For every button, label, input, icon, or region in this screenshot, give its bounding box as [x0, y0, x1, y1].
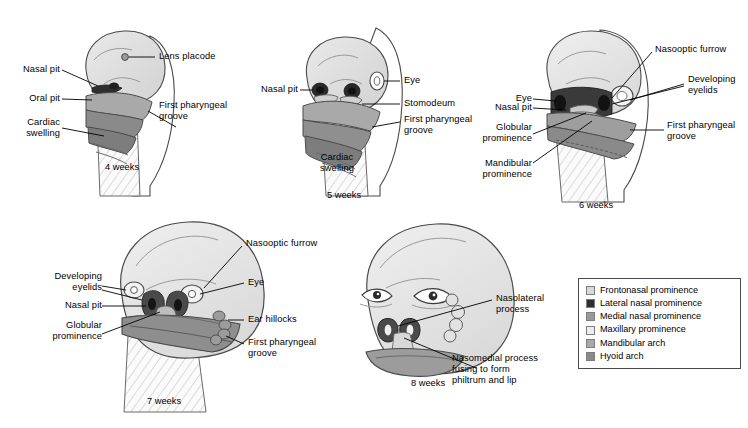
- legend-swatch-mandibular-arch: [586, 339, 595, 348]
- week-label-8w: 8 weeks: [378, 378, 478, 388]
- label-eye-7w: Eye: [248, 277, 264, 288]
- label-nasooptic-furrow-6w: Nasooptic furrow: [655, 44, 726, 55]
- label-eye-5w: Eye: [404, 75, 420, 86]
- legend-item-frontonasal-prominence: Frontonasal prominence: [586, 284, 734, 297]
- label-first-pharyngeal-groove-6w: First pharyngeal groove: [667, 120, 735, 142]
- label-nasolateral-process-8w: Nasolateral process: [496, 293, 544, 315]
- legend-swatch-frontonasal-prominence: [586, 286, 595, 295]
- legend-item-lateral-nasal-prominence: Lateral nasal prominence: [586, 297, 734, 310]
- label-globular-prominence-6w: Globular prominence: [470, 122, 532, 144]
- label-developing-eyelids-7w: Developing eyelids: [34, 271, 102, 293]
- label-developing-eyelids-6w: Developing eyelids: [688, 74, 736, 96]
- legend-label-medial-nasal-prominence: Medial nasal prominence: [600, 312, 701, 322]
- week-label-5w: 5 weeks: [294, 190, 394, 200]
- week-label-6w: 6 weeks: [546, 200, 646, 210]
- legend-label-lateral-nasal-prominence: Lateral nasal prominence: [600, 299, 702, 309]
- legend-item-mandibular-arch: Mandibular arch: [586, 337, 734, 350]
- week-label-4w: 4 weeks: [72, 162, 172, 172]
- legend-swatch-medial-nasal-prominence: [586, 312, 595, 321]
- label-nasal-pit-6w: Nasal pit: [478, 102, 532, 113]
- legend-swatch-hyoid-arch: [586, 352, 595, 361]
- legend-label-maxillary-prominence: Maxillary prominence: [600, 325, 686, 335]
- label-stomodeum-5w: Stomodeum: [404, 98, 455, 109]
- legend-swatch-maxillary-prominence: [586, 326, 595, 335]
- legend-item-hyoid-arch: Hyoid arch: [586, 350, 734, 363]
- label-nasal-pit-7w: Nasal pit: [42, 300, 102, 311]
- label-mandibular-prominence-6w: Mandibular prominence: [462, 158, 532, 180]
- label-cardiac-swelling-5w: Cardiac swelling: [306, 152, 368, 174]
- legend-label-mandibular-arch: Mandibular arch: [600, 339, 665, 349]
- label-nasooptic-furrow-7w: Nasooptic furrow: [246, 238, 317, 249]
- legend-item-maxillary-prominence: Maxillary prominence: [586, 324, 734, 337]
- label-ear-hillocks-7w: Ear hillocks: [248, 314, 297, 325]
- label-cardiac-swelling-4w: Cardiac swelling: [0, 117, 60, 139]
- label-globular-prominence-7w: Globular prominence: [34, 320, 102, 342]
- label-nasal-pit-5w: Nasal pit: [242, 84, 298, 95]
- legend-label-frontonasal-prominence: Frontonasal prominence: [600, 286, 698, 296]
- legend-swatch-lateral-nasal-prominence: [586, 299, 595, 308]
- week-label-7w: 7 weeks: [114, 396, 214, 406]
- legend-label-hyoid-arch: Hyoid arch: [600, 352, 643, 362]
- legend-item-medial-nasal-prominence: Medial nasal prominence: [586, 310, 734, 323]
- embryo-6-weeks: [533, 30, 684, 202]
- label-first-pharyngeal-groove-5w: First pharyngeal groove: [404, 114, 472, 136]
- label-lens-placode-4w: Lens placode: [159, 51, 216, 62]
- label-first-pharyngeal-groove-4w: First pharyngeal groove: [159, 100, 227, 122]
- label-nasal-pit-4w: Nasal pit: [2, 64, 60, 75]
- embryo-7-weeks: [102, 222, 264, 412]
- label-first-pharyngeal-groove-7w: First pharyngeal groove: [248, 337, 316, 359]
- label-oral-pit-4w: Oral pit: [2, 93, 60, 104]
- legend-box: Frontonasal prominence Lateral nasal pro…: [578, 278, 741, 369]
